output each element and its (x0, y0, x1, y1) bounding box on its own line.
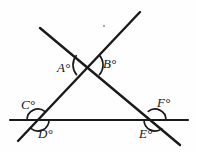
lines-group (10, 12, 188, 145)
angle-label-d: D° (38, 127, 53, 140)
arc-F (148, 109, 166, 120)
angle-label-f: F° (157, 96, 170, 109)
angle-label-a: A° (57, 61, 70, 74)
geometry-figure: A°B°C°D°E°F° (0, 0, 197, 153)
angle-label-b: B° (103, 57, 116, 70)
descending-transversal (40, 28, 180, 145)
ascending-transversal (18, 12, 140, 141)
angle-label-c: C° (21, 98, 35, 111)
geometry-canvas (0, 0, 197, 153)
stray-speck (103, 25, 105, 27)
angle-label-e: E° (139, 127, 152, 140)
